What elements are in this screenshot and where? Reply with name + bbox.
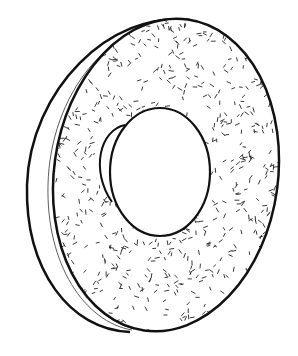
grinding-wheel-illustration bbox=[0, 0, 298, 356]
